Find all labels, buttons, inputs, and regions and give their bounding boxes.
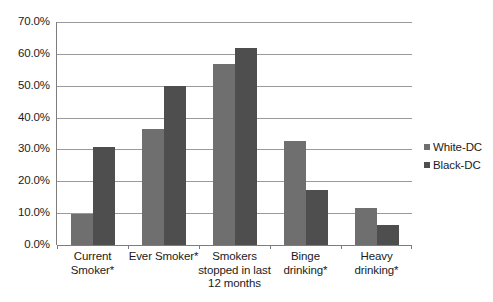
category-label-line: drinking* — [335, 264, 418, 278]
y-axis-tick-label: 60.0% — [0, 48, 50, 60]
legend-item: Black-DC — [424, 157, 493, 173]
y-axis-tick-label: 0.0% — [0, 239, 50, 251]
bar-group — [341, 22, 412, 245]
bar-white-dc — [213, 64, 235, 245]
y-axis-tick-label: 10.0% — [0, 207, 50, 219]
bar-group — [199, 22, 270, 245]
bar-white-dc — [71, 214, 93, 245]
legend-label: Black-DC — [433, 159, 481, 171]
bar-black-dc — [306, 190, 328, 245]
plot-area — [57, 22, 412, 245]
x-axis-baseline — [57, 245, 412, 246]
bar-white-dc — [142, 129, 164, 245]
legend-swatch-icon — [424, 144, 430, 150]
x-axis-tick — [57, 245, 58, 249]
bar-black-dc — [164, 86, 186, 245]
y-axis-tick-label: 50.0% — [0, 80, 50, 92]
legend-swatch-icon — [424, 162, 430, 168]
x-axis-tick — [270, 245, 271, 249]
bar-white-dc — [355, 208, 377, 245]
y-axis-labels: 0.0%10.0%20.0%30.0%40.0%50.0%60.0%70.0% — [0, 0, 50, 302]
bar-groups — [57, 22, 412, 245]
x-axis-category-labels: CurrentSmoker*Ever Smoker*Smokersstopped… — [57, 250, 412, 302]
bar-group — [270, 22, 341, 245]
legend-item: White-DC — [424, 139, 493, 155]
bar-black-dc — [93, 147, 115, 245]
bar-group — [57, 22, 128, 245]
x-axis-tick — [199, 245, 200, 249]
x-axis-tick — [128, 245, 129, 249]
chart-legend: White-DCBlack-DC — [424, 139, 493, 175]
x-axis-tick — [341, 245, 342, 249]
y-axis-tick-label: 20.0% — [0, 175, 50, 187]
category-label-line: Heavy — [335, 250, 418, 264]
bar-black-dc — [377, 225, 399, 245]
legend-label: White-DC — [433, 141, 482, 153]
y-axis-tick-label: 70.0% — [0, 16, 50, 28]
bar-white-dc — [284, 141, 306, 245]
bar-group — [128, 22, 199, 245]
bar-chart: 0.0%10.0%20.0%30.0%40.0%50.0%60.0%70.0% … — [0, 0, 493, 302]
bar-black-dc — [235, 48, 257, 246]
y-axis-tick-label: 40.0% — [0, 112, 50, 124]
category-label-line: 12 months — [193, 277, 276, 291]
category-label-line: Smoker* — [51, 264, 134, 278]
y-axis-tick-label: 30.0% — [0, 143, 50, 155]
x-axis-tick — [411, 245, 412, 249]
x-axis-category-label: Heavydrinking* — [335, 250, 418, 277]
